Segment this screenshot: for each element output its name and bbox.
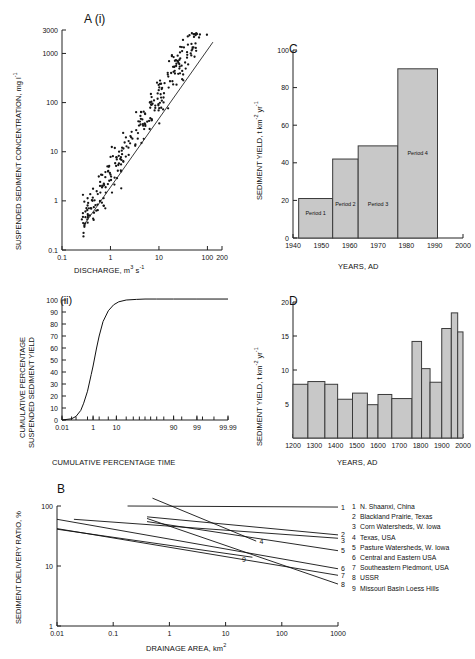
y-tick-label: 20 xyxy=(281,197,289,204)
y-tick-label: 15 xyxy=(281,333,289,340)
y-tick-label: 20 xyxy=(50,393,58,400)
bar xyxy=(422,369,431,438)
bar xyxy=(353,393,368,438)
bar xyxy=(367,405,378,438)
y-tick-label: 10 xyxy=(50,148,58,155)
bar xyxy=(392,399,412,438)
panel-b-plot-area: 0.010.11101001000110100123567849 xyxy=(0,474,350,659)
delivery-ratio-lines xyxy=(57,498,338,584)
series-end-label: 7 xyxy=(341,572,345,579)
x-tick-label: 99.99 xyxy=(219,424,237,431)
x-tick-label: 0.1 xyxy=(108,630,118,637)
x-tick-label: 10 xyxy=(155,254,163,261)
bar xyxy=(430,382,442,438)
legend-item-number: 4 xyxy=(352,533,360,543)
legend-item: 9Missouri Basin Loess Hills xyxy=(352,584,449,594)
y-tick-label: 100 xyxy=(277,47,289,54)
bar xyxy=(293,384,308,438)
series-end-label: 3 xyxy=(341,537,345,544)
bar xyxy=(442,329,452,438)
cumulative-yield-curve xyxy=(62,299,228,420)
y-tick-label: 20 xyxy=(281,299,289,306)
panel-b-line-chart: B SEDIMENT DELIVERY RATIO, % DRAINAGE AR… xyxy=(0,474,475,659)
series-line-8 xyxy=(147,518,338,584)
y-tick-label: 10 xyxy=(281,367,289,374)
x-tick-label: 1970 xyxy=(370,242,386,249)
y-tick-label: 100 xyxy=(41,503,53,510)
legend-item: 2Blackland Prairie, Texas xyxy=(352,512,449,522)
x-tick-label: 1700 xyxy=(391,442,407,449)
legend-item: 7Southeastern Piedmont, USA xyxy=(352,563,449,573)
x-tick-label: 1600 xyxy=(370,442,386,449)
y-tick-label: 40 xyxy=(281,159,289,166)
y-tick-label: 0 xyxy=(54,417,58,424)
legend-item-number: 8 xyxy=(352,573,360,583)
y-tick-label: 80 xyxy=(281,84,289,91)
panel-c-plot-area: 1940195019601970198019902000020406080100… xyxy=(245,0,475,278)
bar xyxy=(299,199,333,238)
bar-label: Period 4 xyxy=(407,150,428,156)
x-tick-label: 100 xyxy=(202,254,214,261)
y-tick-label: 3000 xyxy=(42,27,58,34)
legend-item: 5Pasture Watersheds, W. Iowa xyxy=(352,543,449,553)
y-tick-label: 1 xyxy=(54,197,58,204)
legend-item-number: 9 xyxy=(352,584,360,594)
legend-item-label: Pasture Watersheds, W. Iowa xyxy=(360,544,449,551)
x-tick-label: 10 xyxy=(113,424,121,431)
y-tick-label: 5 xyxy=(285,401,289,408)
y-tick-label: 0.1 xyxy=(48,247,58,254)
bar-label: Period 3 xyxy=(368,201,389,207)
y-tick-label: 60 xyxy=(281,122,289,129)
bar xyxy=(451,313,457,438)
y-tick-label: 10 xyxy=(45,563,53,570)
x-tick-label: 99 xyxy=(193,424,201,431)
series-end-label: 9 xyxy=(242,556,246,563)
bar xyxy=(333,159,359,238)
legend-item-label: Texas, USA xyxy=(360,534,396,541)
y-tick-label: 80 xyxy=(50,321,58,328)
bar xyxy=(338,399,353,438)
x-tick-label: 1960 xyxy=(342,242,358,249)
x-tick-label: 1500 xyxy=(349,442,365,449)
y-tick-label: 1 xyxy=(49,623,53,630)
x-tick-label: 100 xyxy=(276,630,288,637)
y-tick-label: 50 xyxy=(50,357,58,364)
panel-a-i-scatter-chart: A (i) SUSPENDED SEDIMENT CONCENTRATION, … xyxy=(0,0,245,278)
bar xyxy=(378,394,392,438)
panel-a-i-plot-area: 0.11101002000.111010010003000 xyxy=(0,0,245,278)
x-tick-label: 0.1 xyxy=(57,254,67,261)
x-tick-label: 1 xyxy=(167,630,171,637)
x-tick-label: 2000 xyxy=(455,242,471,249)
bar xyxy=(358,146,398,238)
y-tick-label: 30 xyxy=(50,381,58,388)
legend-item-number: 3 xyxy=(352,522,360,532)
legend-item: 6Central and Eastern USA xyxy=(352,553,449,563)
series-end-label: 1 xyxy=(341,504,345,511)
legend-item: 1N. Shaanxi, China xyxy=(352,502,449,512)
series-end-label: 5 xyxy=(341,547,345,554)
x-tick-label: 0.01 xyxy=(50,630,64,637)
y-tick-label: 70 xyxy=(50,333,58,340)
series-line-1 xyxy=(128,506,338,507)
legend-item: 3Corn Watersheds, W. Iowa xyxy=(352,522,449,532)
bar xyxy=(325,384,338,438)
y-tick-label: 90 xyxy=(50,309,58,316)
scatter-points xyxy=(81,32,208,237)
x-tick-label: 1 xyxy=(109,254,113,261)
x-tick-label: 1940 xyxy=(285,242,301,249)
x-tick-label: 1200 xyxy=(285,442,301,449)
legend-item-label: Corn Watersheds, W. Iowa xyxy=(360,523,441,530)
y-tick-label: 0 xyxy=(285,235,289,242)
x-tick-label: 1 xyxy=(91,424,95,431)
panel-a-ii-cumulative-chart: (ii) CUMULATIVE PERCENTAGE SUSPENDED SED… xyxy=(0,278,245,474)
legend-item-number: 7 xyxy=(352,563,360,573)
legend-item: 8USSR xyxy=(352,573,449,583)
panel-b-legend: 1N. Shaanxi, China2Blackland Prairie, Te… xyxy=(352,502,449,594)
legend-item-label: Missouri Basin Loess Hills xyxy=(360,585,439,592)
series-line-4 xyxy=(152,498,256,541)
x-tick-label: 90 xyxy=(170,424,178,431)
bar xyxy=(458,332,463,438)
legend-item-number: 6 xyxy=(352,553,360,563)
y-tick-label: 100 xyxy=(46,297,58,304)
legend-item: 4Texas, USA xyxy=(352,533,449,543)
